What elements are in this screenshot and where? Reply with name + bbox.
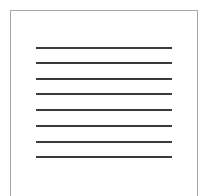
text-line bbox=[36, 78, 172, 80]
document-page-icon bbox=[10, 10, 198, 196]
text-line bbox=[36, 109, 172, 111]
text-line bbox=[36, 93, 172, 95]
text-line bbox=[36, 125, 172, 127]
text-line bbox=[36, 156, 172, 158]
text-line bbox=[36, 62, 172, 64]
text-line bbox=[36, 141, 172, 143]
text-line bbox=[36, 47, 172, 49]
